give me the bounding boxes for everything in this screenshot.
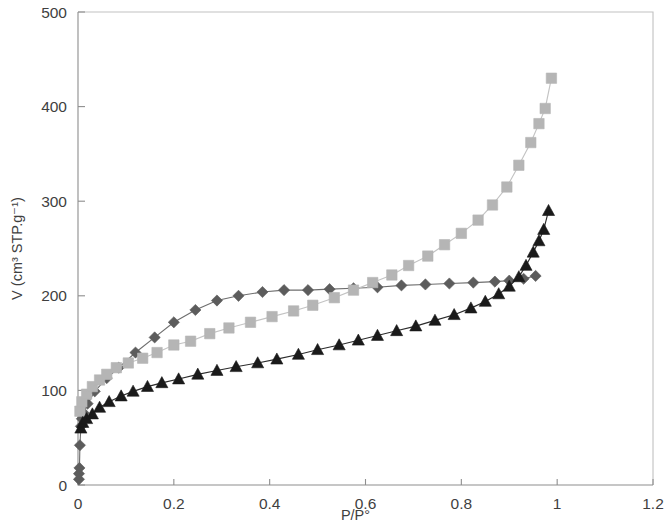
data-point-square [102, 369, 112, 379]
data-point-triangle [479, 295, 491, 306]
axis-frame-left-bottom [78, 12, 653, 485]
data-point-square [185, 336, 195, 346]
data-point-square [75, 406, 85, 416]
data-point-square [169, 340, 179, 350]
data-point-triangle [127, 385, 139, 396]
data-point-square [329, 292, 339, 302]
data-point-square [546, 73, 556, 83]
data-point-diamond [74, 440, 85, 451]
data-point-square [137, 353, 147, 363]
data-point-triangle [527, 246, 539, 257]
data-point-diamond [444, 278, 455, 289]
x-tick-label: 0.4 [259, 495, 281, 512]
data-point-square [487, 200, 497, 210]
data-point-diamond [302, 285, 313, 296]
series-sample-b [75, 204, 555, 433]
chart-canvas: 00.20.40.60.811.2 0100200300400500 P/P°V… [0, 0, 664, 531]
data-point-diamond [396, 280, 407, 291]
x-axis-title: P/P° [341, 507, 370, 523]
series-line [81, 211, 549, 429]
data-point-square [526, 137, 536, 147]
y-tick-label: 300 [41, 193, 67, 210]
data-point-square [534, 118, 544, 128]
y-tick-label: 500 [41, 4, 67, 21]
isotherm-figure: 00.20.40.60.811.2 0100200300400500 P/P°V… [0, 0, 664, 531]
x-tick-label: 0.8 [451, 495, 473, 512]
data-point-diamond [420, 279, 431, 290]
data-point-square [123, 358, 133, 368]
y-tick-label: 0 [58, 477, 67, 494]
series-line [80, 78, 552, 411]
axis-titles: P/P°V (cm³ STP.g⁻¹) [9, 197, 370, 523]
data-point-triangle [542, 204, 554, 215]
x-axis-ticks [78, 479, 653, 485]
data-point-diamond [233, 290, 244, 301]
data-point-square [514, 160, 524, 170]
data-point-diamond [278, 285, 289, 296]
data-point-diamond [149, 332, 160, 343]
data-point-diamond [489, 276, 500, 287]
data-point-triangle [103, 396, 115, 407]
data-point-square [423, 251, 433, 261]
data-point-triangle [533, 235, 545, 246]
y-axis-title: V (cm³ STP.g⁻¹) [9, 197, 25, 300]
y-tick-label: 100 [41, 382, 67, 399]
data-point-triangle [493, 288, 505, 299]
data-point-square [288, 306, 298, 316]
y-tick-label: 200 [41, 287, 67, 304]
data-point-square [205, 328, 215, 338]
x-tick-label: 1.2 [642, 495, 664, 512]
x-tick-label: 1 [553, 495, 562, 512]
data-point-square [308, 300, 318, 310]
data-point-square [348, 285, 358, 295]
data-point-square [540, 103, 550, 113]
data-point-square [245, 317, 255, 327]
data-point-square [387, 270, 397, 280]
data-point-square [439, 240, 449, 250]
data-point-triangle [465, 302, 477, 313]
y-axis-tick-labels: 0100200300400500 [41, 4, 67, 494]
data-point-square [456, 228, 466, 238]
data-point-square [502, 182, 512, 192]
data-point-diamond [190, 304, 201, 315]
series-sample-a-adsorption [75, 73, 557, 416]
data-point-triangle [448, 309, 460, 320]
data-point-square [403, 260, 413, 270]
data-point-square [111, 362, 121, 372]
axis-frame-top-right [78, 12, 653, 485]
data-series-layer [73, 73, 556, 485]
data-point-diamond [211, 295, 222, 306]
data-point-triangle [115, 390, 127, 401]
data-point-square [152, 347, 162, 357]
data-point-diamond [257, 286, 268, 297]
data-point-diamond [468, 277, 479, 288]
y-tick-label: 400 [41, 98, 67, 115]
data-point-square [473, 215, 483, 225]
data-point-triangle [520, 259, 532, 270]
data-point-diamond [168, 317, 179, 328]
data-point-square [267, 311, 277, 321]
data-point-square [367, 277, 377, 287]
x-tick-label: 0.2 [163, 495, 185, 512]
x-tick-label: 0 [74, 495, 83, 512]
data-point-triangle [538, 223, 550, 234]
plot-frame [78, 12, 653, 485]
data-point-square [224, 323, 234, 333]
data-point-diamond [530, 270, 541, 281]
y-axis-title-group: V (cm³ STP.g⁻¹) [9, 197, 25, 300]
